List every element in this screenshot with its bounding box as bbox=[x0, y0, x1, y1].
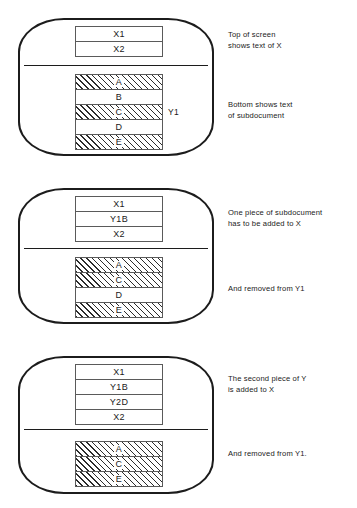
subdoc-row-label: D bbox=[114, 123, 124, 132]
text-row: Y1B bbox=[76, 212, 162, 227]
subdoc-row-label: D bbox=[114, 291, 124, 300]
caption-bottom-3: And removed from Y1. bbox=[228, 449, 356, 460]
subdoc-row: A bbox=[76, 442, 162, 457]
text-row: X1 bbox=[76, 197, 162, 212]
subdoc-row: B bbox=[76, 90, 162, 105]
text-row-label: Y1B bbox=[109, 215, 130, 224]
caption-bottom-1: Bottom shows text of subdocument bbox=[228, 100, 356, 121]
subdoc-row-label: C bbox=[114, 108, 124, 117]
text-row-label: X2 bbox=[112, 413, 127, 422]
y1-side-label: Y1 bbox=[168, 108, 179, 117]
subdoc-row: D bbox=[76, 120, 162, 135]
subdoc-row-label: E bbox=[114, 475, 123, 484]
caption-top-3: The second piece of Y is added to X bbox=[228, 374, 356, 395]
text-row-label: X1 bbox=[112, 30, 127, 39]
caption-top-1: Top of screen shows text of X bbox=[228, 30, 356, 51]
subdocument-stack-2: A C D E bbox=[75, 257, 163, 318]
text-row: Y1B bbox=[76, 380, 162, 395]
text-row-label: Y1B bbox=[109, 383, 130, 392]
x-text-stack-2: X1 Y1B X2 bbox=[75, 196, 163, 242]
subdoc-row-label: A bbox=[114, 445, 123, 454]
figure-page: { "figure": { "title": "Subdocument text… bbox=[0, 0, 357, 508]
subdoc-row-label: E bbox=[114, 306, 123, 315]
subdoc-row: A bbox=[76, 75, 162, 90]
text-row-label: X2 bbox=[112, 45, 127, 54]
text-row: X2 bbox=[76, 410, 162, 424]
subdocument-stack-3: A C E bbox=[75, 441, 163, 487]
subdoc-row: E bbox=[76, 135, 162, 149]
panel-3: X1 Y1B Y2D X2 A C E The second piece of … bbox=[0, 336, 357, 508]
subdoc-row-label: B bbox=[114, 93, 123, 102]
x-text-stack-3: X1 Y1B Y2D X2 bbox=[75, 364, 163, 425]
panel-2: X1 Y1B X2 A C D E One piece of subdocume… bbox=[0, 170, 357, 338]
x-text-stack-1: X1 X2 bbox=[75, 26, 163, 57]
text-row-label: X1 bbox=[112, 200, 127, 209]
subdoc-row: A bbox=[76, 258, 162, 273]
caption-top-2: One piece of subdocument has to be added… bbox=[228, 208, 356, 229]
text-row-label: X1 bbox=[112, 368, 127, 377]
text-row: X2 bbox=[76, 42, 162, 56]
subdoc-row-label: A bbox=[114, 78, 123, 87]
screen-divider-1 bbox=[24, 65, 208, 66]
subdoc-row: E bbox=[76, 472, 162, 486]
subdoc-row: C bbox=[76, 105, 162, 120]
text-row: Y2D bbox=[76, 395, 162, 410]
subdoc-row-label: A bbox=[114, 261, 123, 270]
subdoc-row-label: E bbox=[114, 138, 123, 147]
subdoc-row: C bbox=[76, 273, 162, 288]
text-row: X2 bbox=[76, 227, 162, 241]
subdoc-row-label: C bbox=[114, 276, 124, 285]
subdoc-row: E bbox=[76, 303, 162, 317]
text-row-label: X2 bbox=[112, 230, 127, 239]
caption-bottom-2: And removed from Y1 bbox=[228, 284, 356, 295]
text-row: X1 bbox=[76, 365, 162, 380]
screen-divider-3 bbox=[24, 429, 208, 430]
text-row-label: Y2D bbox=[108, 398, 129, 407]
screen-divider-2 bbox=[24, 248, 208, 249]
panel-1: X1 X2 A B C D E Y1 Top of screen shows t… bbox=[0, 0, 357, 172]
text-row: X1 bbox=[76, 27, 162, 42]
subdocument-stack-1: A B C D E bbox=[75, 74, 163, 150]
subdoc-row: C bbox=[76, 457, 162, 472]
subdoc-row: D bbox=[76, 288, 162, 303]
subdoc-row-label: C bbox=[114, 460, 124, 469]
